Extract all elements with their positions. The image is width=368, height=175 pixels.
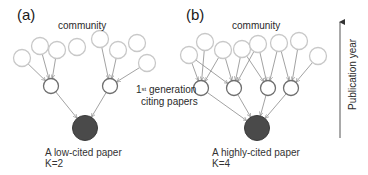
panel-a-caption: A low-cited paper K=2 [45,147,122,169]
community-paper-node [129,35,146,52]
panel-a-tag: (a) [17,6,35,23]
first-gen-citation-edge [207,92,246,120]
community-paper-node [110,42,127,59]
community-paper-node [14,50,31,67]
first-gen-citation-edge [56,92,77,118]
community-citation-edge [236,57,241,80]
community-paper-node [49,42,66,59]
community-paper-node [250,36,267,53]
community-paper-node [215,42,232,59]
first-gen-citation-edge [92,92,107,116]
community-citation-edge [42,54,49,78]
community-citation-edge [112,58,116,78]
panel-b-caption: A highly-cited paper K=4 [212,147,300,169]
community-citation-edge [225,58,231,80]
community-paper-node [69,39,86,56]
first-gen-citation-edge [265,94,286,118]
citing-paper-node [284,81,299,96]
community-paper-node [32,38,49,55]
cited-paper-node [73,116,98,141]
community-paper-node [92,31,109,48]
community-citation-edge [202,50,205,80]
community-citation-edge [281,51,289,80]
community-citation-edge [117,67,140,81]
citing-paper-node [44,79,59,94]
cited-paper-node [245,116,270,141]
citing-paper-node [227,81,242,96]
citation-network-diagram: (a) community A low-cited paper K=2 1st … [0,0,368,175]
community-paper-node [139,55,156,72]
community-citation-edge [196,60,228,83]
citing-paper-node [103,79,118,94]
community-citation-edge [205,57,219,81]
gen-prefix: 1 [136,84,142,95]
first-gen-citation-edge [260,95,266,115]
gen-line2: citing papers [136,96,198,108]
first-gen-citation-edge [238,95,251,117]
community-citation-edge [52,58,55,78]
community-citation-edge [192,63,198,80]
community-paper-node [291,33,308,50]
community-paper-node [234,41,251,58]
community-citation-edge [296,62,312,81]
panel-b-tag: (b) [186,6,204,23]
gen-suffix: generation [146,84,196,95]
panel-b-community-label: community [232,20,280,31]
community-citation-edge [270,51,277,80]
citing-paper-node [261,81,276,96]
panel-b-caption-k: K=4 [212,158,300,169]
publication-year-label: Publication year [347,39,358,110]
panel-a-community-label: community [58,20,106,31]
community-paper-node [271,35,288,52]
panel-a-caption-k: K=2 [45,158,122,169]
panel-a-caption-title: A low-cited paper [45,147,122,158]
community-paper-node [181,47,198,64]
community-citation-edge [28,64,45,81]
community-citation-edge [260,52,266,80]
gen-sup: st [142,86,147,92]
community-paper-node [197,34,214,51]
first-generation-label: 1st generation citing papers [136,84,198,108]
panel-b-caption-title: A highly-cited paper [212,147,300,158]
community-paper-node [310,48,327,65]
community-citation-edge [102,47,109,78]
community-citation-edge [292,49,297,80]
